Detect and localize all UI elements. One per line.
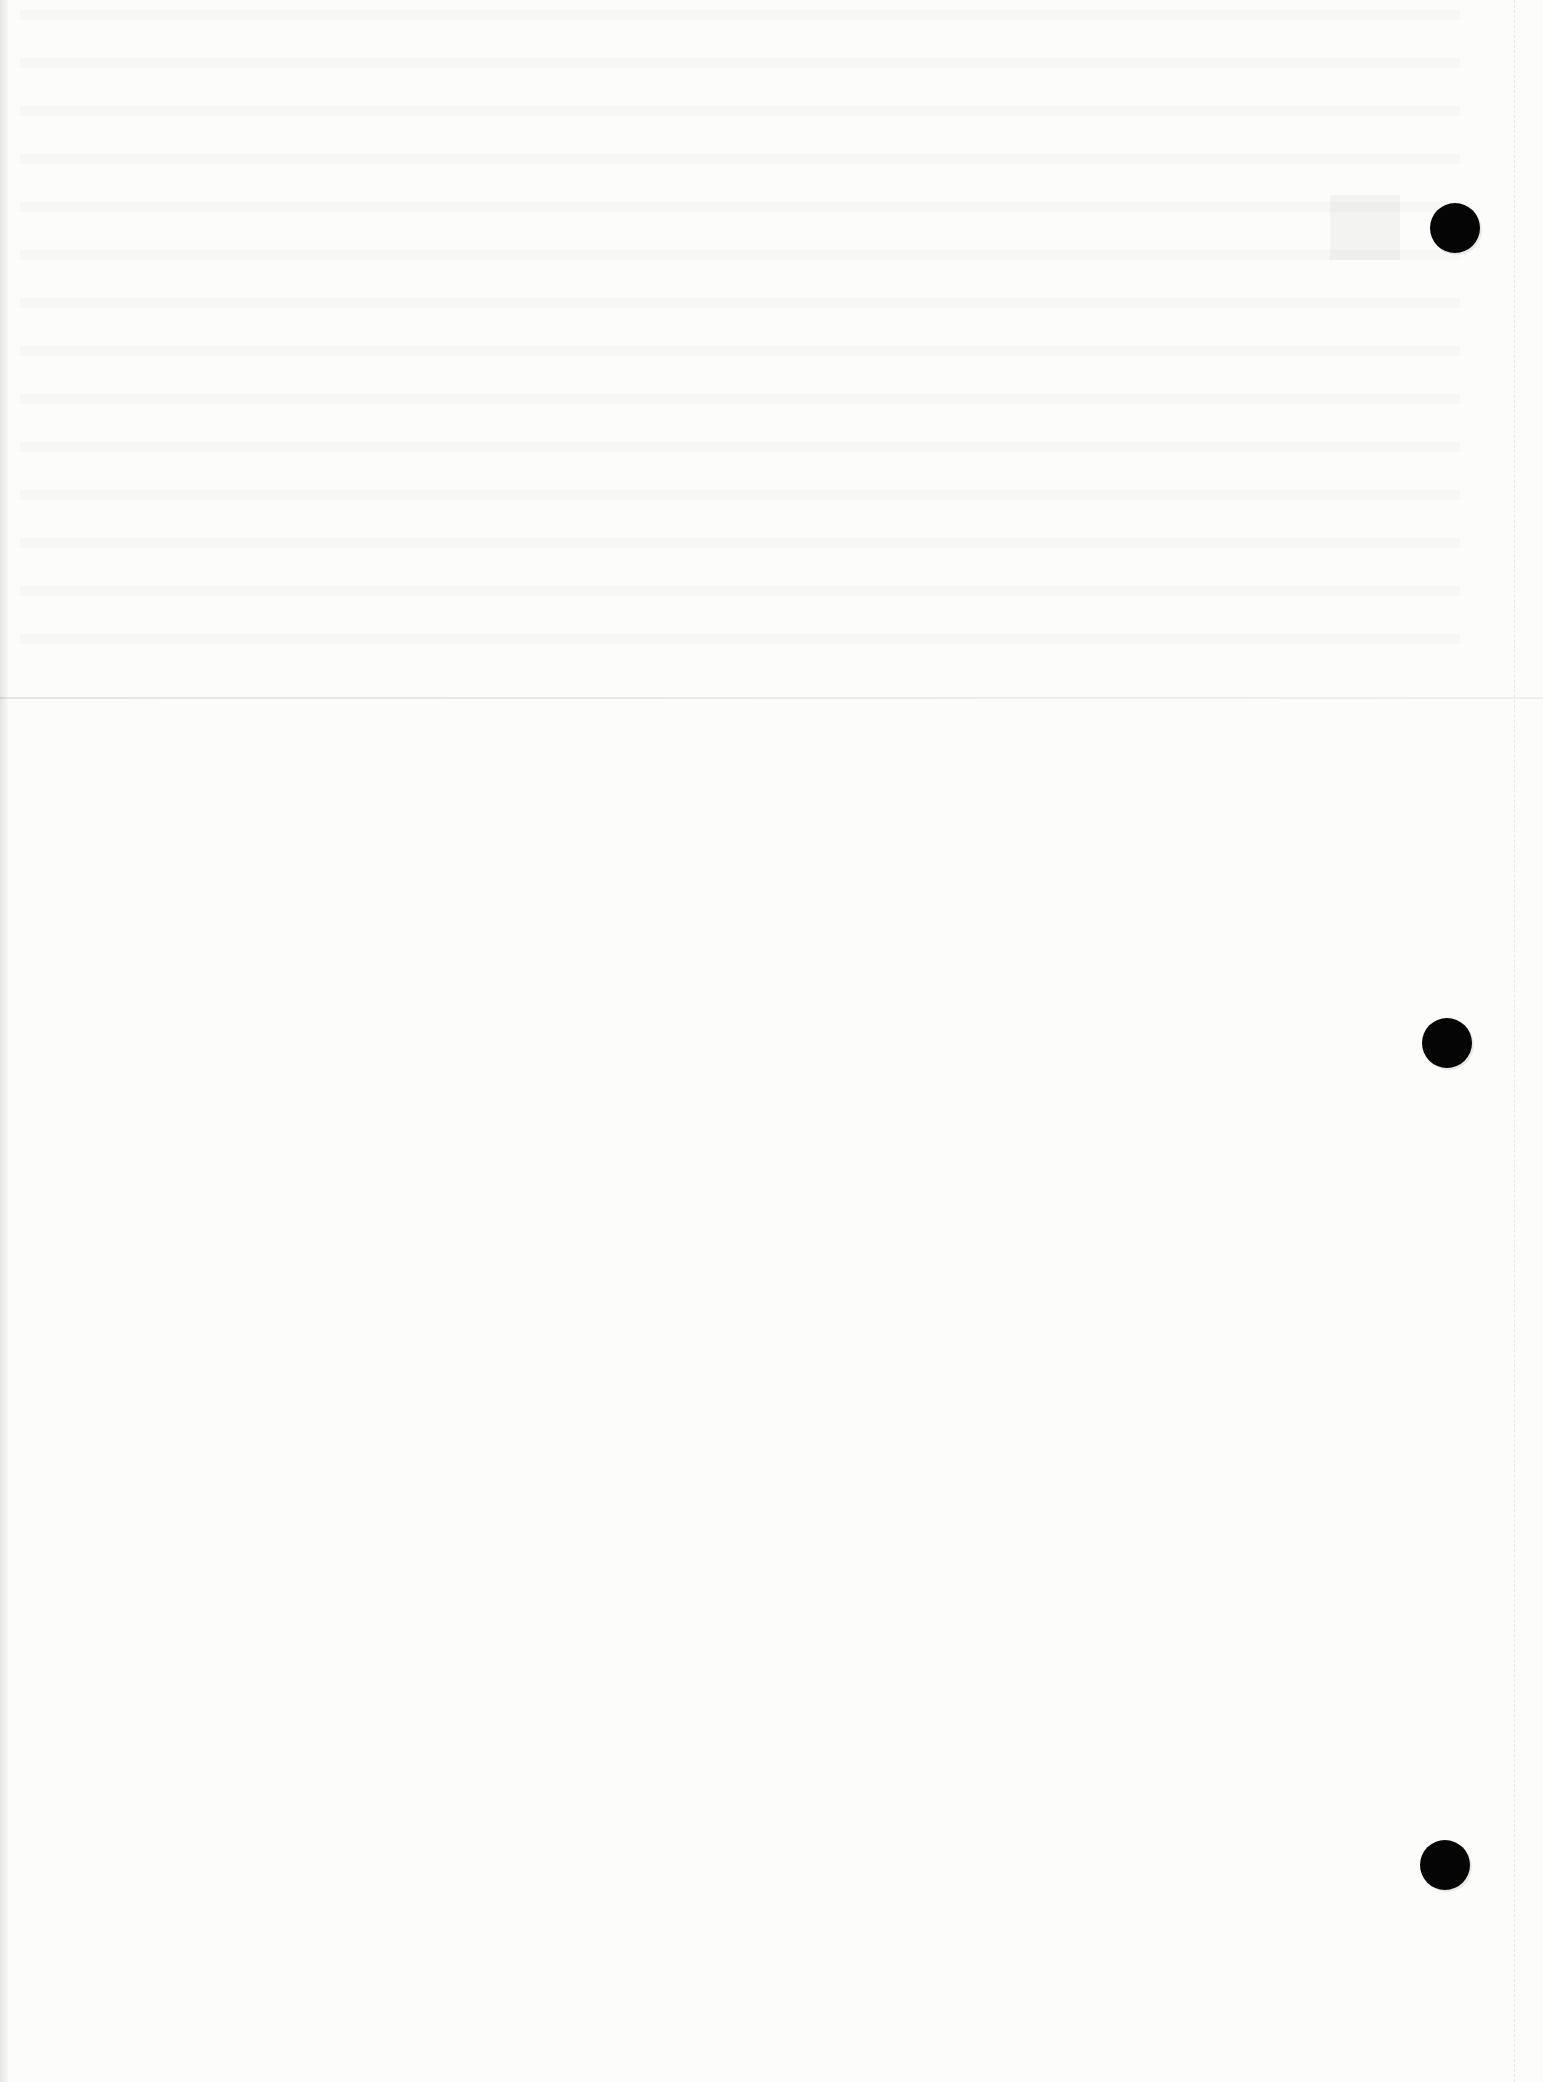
- paper-fold-line: [0, 697, 1543, 699]
- scan-smudge: [1330, 195, 1400, 260]
- punch-hole-icon: [1420, 1840, 1470, 1890]
- page-left-edge-shadow: [0, 0, 8, 2082]
- punch-hole-icon: [1430, 203, 1480, 253]
- punch-hole-icon: [1422, 1018, 1472, 1068]
- page-right-edge: [1513, 0, 1515, 2082]
- scanned-page: [0, 0, 1543, 2082]
- bleed-through-text-area: [20, 10, 1460, 650]
